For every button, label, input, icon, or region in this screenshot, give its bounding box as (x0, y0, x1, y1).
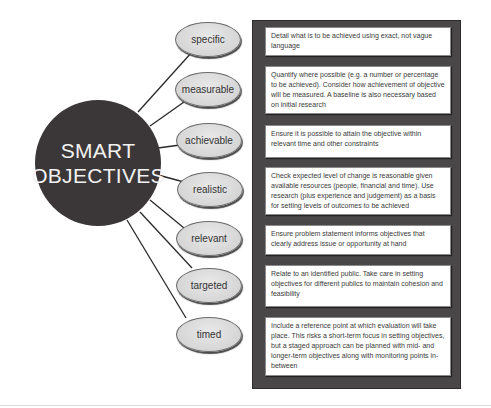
criterion-relevant: relevant (176, 221, 242, 256)
criterion-targeted: targeted (176, 268, 242, 303)
connector-relevant (150, 200, 184, 228)
criterion-realistic: realistic (177, 172, 243, 207)
description-text: Detail what is to be achieved using exac… (271, 32, 432, 49)
description-text: Relate to an identified public. Take car… (271, 270, 443, 297)
description-card-specific: Detail what is to be achieved using exac… (265, 27, 451, 56)
description-text: Quantify where possible (e.g. a number o… (271, 71, 445, 108)
criterion-label: measurable (182, 84, 234, 95)
criterion-label: timed (197, 329, 221, 340)
criterion-specific: specific (175, 22, 241, 57)
description-text: Ensure problem statement informs objecti… (271, 230, 425, 247)
page-divider (0, 405, 491, 406)
description-card-realistic: Check expected level of change is reason… (265, 167, 451, 215)
criterion-label: targeted (191, 280, 228, 291)
description-card-timed: Include a reference point at which evalu… (265, 317, 451, 376)
criterion-label: relevant (191, 233, 227, 244)
criterion-measurable: measurable (175, 72, 241, 107)
criterion-timed: timed (176, 317, 242, 352)
smart-objectives-diagram: SMART OBJECTIVES specific measurable ach… (0, 0, 491, 408)
hub-title-line2: OBJECTIVES (31, 163, 165, 188)
description-card-measurable: Quantify where possible (e.g. a number o… (265, 66, 451, 114)
criterion-achievable: achievable (176, 123, 242, 158)
criterion-label: specific (191, 34, 224, 45)
description-card-targeted: Relate to an identified public. Take car… (265, 265, 451, 307)
connector-measurable (150, 102, 184, 126)
criterion-label: achievable (185, 135, 233, 146)
smart-objectives-hub: SMART OBJECTIVES (35, 100, 161, 226)
description-text: Ensure it is possible to attain the obje… (271, 130, 421, 147)
description-card-achievable: Ensure it is possible to attain the obje… (265, 125, 451, 158)
description-text: Check expected level of change is reason… (271, 172, 436, 209)
criterion-label: realistic (193, 184, 227, 195)
description-card-relevant: Ensure problem statement informs objecti… (265, 225, 451, 255)
hub-title-line1: SMART (61, 138, 136, 163)
description-text: Include a reference point at which evalu… (271, 322, 444, 369)
